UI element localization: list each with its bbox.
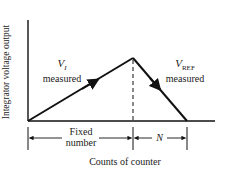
n-label: N <box>152 133 167 143</box>
ramp-up-arrow-icon <box>82 80 98 90</box>
fixed-number-label: Fixed number <box>62 127 100 148</box>
integrator-diagram <box>0 0 226 172</box>
ramp-down-label: VREF measured <box>160 58 210 84</box>
y-axis-label: Integrator voltage output <box>1 25 11 119</box>
ramp-up-label: VI measured <box>40 58 84 84</box>
fixed-text: Fixed <box>62 127 100 137</box>
x-axis-label: Counts of counter <box>70 157 180 167</box>
vref-measured-text: measured <box>160 74 210 84</box>
number-text: number <box>62 138 100 148</box>
vi-measured-text: measured <box>40 74 84 84</box>
vi-subscript: I <box>64 64 66 72</box>
vref-symbol: V <box>175 57 182 69</box>
ramp-down-arrow-icon <box>150 78 160 90</box>
vref-subscript: REF <box>182 64 195 72</box>
